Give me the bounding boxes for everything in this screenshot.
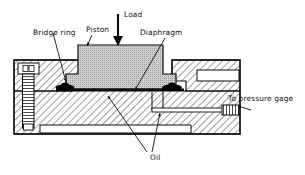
diagram-canvas: Bridge ring Piston Load Diaphragm To pre… (0, 0, 305, 175)
body-right-upper-block (172, 60, 240, 91)
bridge-ring-right-bead (168, 82, 176, 87)
body-bottom-cavity (40, 125, 191, 133)
piston-body (66, 45, 176, 89)
body-right-relief-bore (197, 70, 239, 81)
label-bridge-ring: Bridge ring (33, 28, 76, 37)
bolt-head-facet-right (29, 66, 34, 72)
label-oil: Oil (150, 153, 160, 162)
piston-leader (87, 35, 92, 46)
load-cell-cross-section-figure: Bridge ring Piston Load Diaphragm To pre… (0, 0, 305, 175)
bolt-nut (24, 124, 34, 130)
bolt-threaded-shank (23, 74, 35, 128)
label-diaphragm: Diaphragm (140, 28, 182, 37)
body-lower-block (14, 91, 240, 134)
bridge-ring-left-bead (61, 82, 69, 87)
bolt-head (18, 63, 39, 74)
label-load: Load (124, 10, 142, 19)
piston (66, 45, 176, 89)
oil-passage-horizontal (152, 108, 230, 112)
label-piston: Piston (86, 25, 109, 34)
bolt-head-facet-left (23, 66, 28, 72)
label-pressure-gage: To pressure gage (227, 94, 294, 103)
pressure-gage-port (222, 105, 239, 115)
